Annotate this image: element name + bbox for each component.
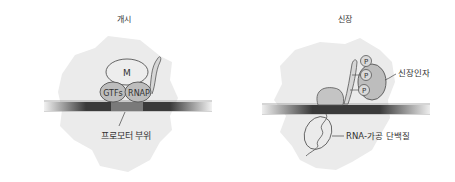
promoter-region [111,102,143,111]
elongation-panel: 신장 P P P 신장인자 [262,14,430,170]
promoter-label: 프로모터 부위 [101,131,152,141]
elongation-factor-label: 신장인자 [398,68,430,78]
initiation-panel: 개시 M GTFs RNAP 프로모터 부위 [44,14,212,172]
transcription-diagram: 개시 M GTFs RNAP 프로모터 부위 신장 [0,0,455,182]
dna-strand-2 [262,104,430,114]
svg-text:P: P [362,87,366,95]
phosphate-group: P [361,70,372,81]
rna-polymerase [317,88,344,105]
initiation-title: 개시 [117,14,131,24]
gtfs-label: GTFs [103,89,123,98]
phosphate-group: P [361,56,372,67]
rna-processing-label: RNA-가공 단백질 [346,131,410,141]
dna-strand [44,101,212,111]
elongation-title: 신장 [338,14,353,24]
svg-text:P: P [364,58,368,66]
svg-text:P: P [364,72,368,80]
rnap-label: RNAP [128,89,150,98]
phosphate-group: P [359,85,370,96]
mediator-label: M [123,68,131,78]
